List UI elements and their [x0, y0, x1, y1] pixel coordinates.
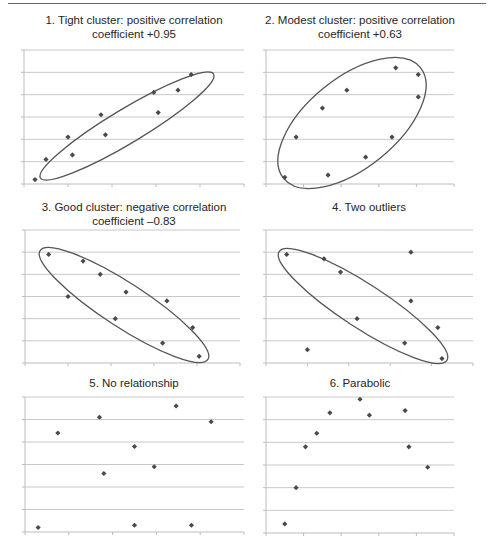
- data-point: [303, 444, 308, 449]
- data-point: [65, 294, 70, 299]
- data-point: [325, 172, 330, 177]
- data-point: [80, 258, 85, 263]
- data-point: [403, 408, 408, 413]
- data-point: [439, 356, 444, 361]
- data-point: [132, 523, 137, 528]
- data-point: [435, 325, 440, 330]
- data-point: [408, 298, 413, 303]
- data-point: [282, 175, 287, 180]
- data-point: [123, 289, 128, 294]
- data-point: [156, 110, 161, 115]
- cluster-ellipse: [267, 233, 459, 379]
- data-point: [32, 177, 37, 182]
- data-point: [174, 403, 179, 408]
- data-point: [305, 347, 310, 352]
- cluster-ellipse: [255, 33, 448, 214]
- data-point: [101, 471, 106, 476]
- data-point: [314, 431, 319, 436]
- data-point: [393, 65, 398, 70]
- data-point: [164, 298, 169, 303]
- plots-canvas: [0, 0, 488, 551]
- data-point: [282, 521, 287, 526]
- data-point: [55, 430, 60, 435]
- data-point: [189, 523, 194, 528]
- data-point: [70, 152, 75, 157]
- cluster-ellipse: [28, 232, 220, 378]
- data-point: [98, 272, 103, 277]
- data-point: [132, 444, 137, 449]
- data-point: [406, 444, 411, 449]
- data-point: [367, 413, 372, 418]
- data-point: [320, 105, 325, 110]
- data-point: [197, 354, 202, 359]
- data-point: [354, 316, 359, 321]
- data-point: [175, 88, 180, 93]
- data-point: [103, 132, 108, 137]
- data-point: [408, 250, 413, 255]
- data-point: [327, 410, 332, 415]
- cluster-ellipse: [32, 59, 223, 192]
- data-point: [36, 525, 41, 530]
- data-point: [113, 316, 118, 321]
- data-point: [293, 485, 298, 490]
- data-point: [344, 88, 349, 93]
- data-point: [363, 155, 368, 160]
